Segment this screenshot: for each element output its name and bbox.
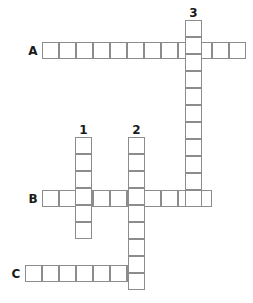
crossword-cell[interactable] (42, 42, 59, 59)
crossword-cell[interactable] (185, 122, 202, 139)
crossword-cell[interactable] (185, 156, 202, 173)
crossword-cell[interactable] (128, 222, 145, 239)
crossword-cell[interactable] (128, 239, 145, 256)
crossword-cell[interactable] (185, 37, 202, 54)
crossword-cell[interactable] (75, 137, 92, 154)
crossword-cell[interactable] (161, 42, 178, 59)
crossword-cell[interactable] (185, 139, 202, 156)
crossword-cell[interactable] (185, 20, 202, 37)
crossword-cell[interactable] (42, 265, 59, 282)
crossword-cell[interactable] (59, 265, 76, 282)
crossword-cell[interactable] (110, 42, 127, 59)
crossword-cell[interactable] (144, 42, 161, 59)
crossword-cell[interactable] (76, 265, 93, 282)
crossword-cell[interactable] (185, 88, 202, 105)
crossword-cell[interactable] (25, 265, 42, 282)
crossword-cell[interactable] (110, 265, 127, 282)
crossword-cell[interactable] (128, 171, 145, 188)
crossword-cell[interactable] (110, 190, 127, 207)
crossword-cell[interactable] (185, 173, 202, 190)
crossword-cell[interactable] (59, 42, 76, 59)
column-number-1: 1 (75, 124, 92, 136)
crossword-cell[interactable] (75, 154, 92, 171)
crossword-cell[interactable] (212, 42, 229, 59)
crossword-cell[interactable] (75, 205, 92, 222)
crossword-cell[interactable] (75, 171, 92, 188)
crossword-cell[interactable] (76, 42, 93, 59)
crossword-cell[interactable] (185, 190, 202, 207)
crossword-cell[interactable] (185, 54, 202, 71)
crossword-cell[interactable] (128, 188, 145, 205)
crossword-cell[interactable] (128, 273, 145, 290)
crossword-cell[interactable] (59, 190, 76, 207)
crossword-cell[interactable] (185, 105, 202, 122)
crossword-cell[interactable] (128, 256, 145, 273)
column-number-3: 3 (185, 7, 202, 19)
crossword-cell[interactable] (93, 42, 110, 59)
crossword-cell[interactable] (128, 154, 145, 171)
crossword-cell[interactable] (128, 137, 145, 154)
column-number-2: 2 (128, 124, 145, 136)
crossword-cell[interactable] (93, 190, 110, 207)
crossword-cell[interactable] (161, 190, 178, 207)
crossword-cell[interactable] (127, 42, 144, 59)
crossword-cell[interactable] (144, 190, 161, 207)
crossword-cell[interactable] (42, 190, 59, 207)
row-label-b: B (26, 193, 40, 205)
crossword-puzzle: A B C 1 2 3 (0, 0, 253, 303)
row-label-c: C (9, 268, 23, 280)
crossword-cell[interactable] (75, 222, 92, 239)
crossword-cell[interactable] (93, 265, 110, 282)
crossword-cell[interactable] (229, 42, 246, 59)
row-label-a: A (26, 45, 40, 57)
crossword-cell[interactable] (185, 71, 202, 88)
crossword-cell[interactable] (75, 188, 92, 205)
crossword-cell[interactable] (128, 205, 145, 222)
